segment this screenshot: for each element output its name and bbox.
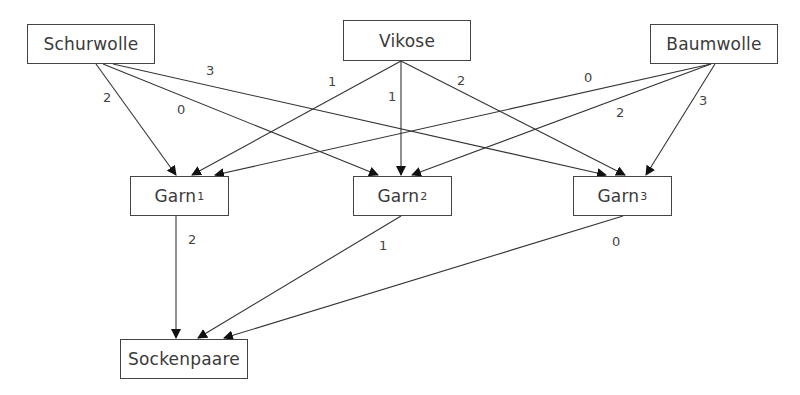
edge-schurwolle-garn2: [103, 64, 378, 175]
edge-weight-label: 1: [379, 238, 387, 253]
edge-weight-label: 2: [188, 232, 196, 247]
node-garn3: Garn3: [573, 176, 672, 216]
node-label: Baumwolle: [666, 34, 761, 54]
edge-weight-label: 2: [457, 73, 465, 88]
edge-garn2-sockenpaare: [198, 216, 401, 338]
node-subscript: 1: [197, 190, 204, 203]
edge-schurwolle-garn1: [96, 64, 176, 175]
edge-weight-label: 1: [328, 74, 336, 89]
node-label: Garn: [377, 186, 419, 206]
edge-weight-label: 0: [584, 70, 592, 85]
edge-weight-label: 1: [388, 89, 396, 104]
node-sockenpaare: Sockenpaare: [120, 339, 248, 379]
node-garn1: Garn1: [130, 176, 229, 216]
node-garn2: Garn2: [353, 176, 452, 216]
edge-baumwolle-garn3: [646, 64, 715, 175]
edge-weight-label: 0: [612, 234, 620, 249]
node-vikose: Vikose: [343, 20, 471, 61]
edge-schurwolle-garn3: [113, 64, 606, 175]
node-label: Vikose: [379, 31, 435, 51]
edge-weight-label: 3: [699, 93, 707, 108]
edge-weight-label: 0: [177, 102, 185, 117]
node-subscript: 2: [420, 190, 427, 203]
node-baumwolle: Baumwolle: [650, 24, 778, 64]
node-schurwolle: Schurwolle: [27, 24, 155, 64]
node-subscript: 3: [640, 190, 647, 203]
edge-weight-label: 2: [103, 90, 111, 105]
edge-weight-label: 2: [616, 105, 624, 120]
node-label: Garn: [597, 186, 639, 206]
node-label: Schurwolle: [44, 34, 139, 54]
edge-weight-label: 3: [206, 63, 214, 78]
node-label: Garn: [154, 186, 196, 206]
edge-garn3-sockenpaare: [224, 216, 623, 338]
edge-vikose-garn1: [192, 61, 401, 175]
node-label: Sockenpaare: [128, 349, 240, 369]
